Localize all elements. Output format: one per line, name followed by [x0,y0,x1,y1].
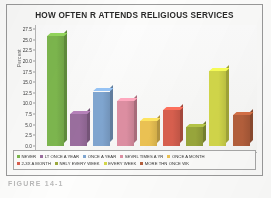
y-axis-label: Percent [17,49,22,67]
figure-page: HOW OFTEN R ATTENDS RELIGIOUS SERVICES P… [0,0,271,198]
y-tick-label: 22.5 [23,48,32,53]
y-tick-label: 12.5 [23,90,32,95]
legend-item[interactable]: ONCE A YEAR [83,153,116,160]
legend-item[interactable]: LT ONCE A YEAR [40,153,79,160]
bar-top [163,107,184,110]
bar-face [117,101,134,146]
bar-top [233,112,254,115]
bar[interactable] [117,101,134,146]
bar[interactable] [93,92,110,146]
bar[interactable] [233,115,250,146]
bar-side [226,64,229,142]
legend-item[interactable]: EVERY WEEK [104,160,137,167]
bar-side [64,30,67,143]
bar-face [93,92,110,146]
bar-top [117,98,138,101]
legend-label: NEVER [22,153,37,160]
y-tick-label: 7.5 [25,112,32,117]
legend-swatch [17,155,20,158]
bar-series [35,25,257,146]
bar-face [70,114,87,146]
figure-caption: FIGURE 14-1 [8,180,64,187]
legend-swatch [83,155,86,158]
legend-item[interactable]: NEVER [17,153,36,160]
bar[interactable] [163,110,180,146]
bar-face [186,127,203,146]
bar-face [209,71,226,146]
bar-face [140,121,157,146]
legend-label: EVERY WEEK [108,160,136,167]
legend-item[interactable]: 2-3X A MONTH [17,160,51,167]
legend-swatch [167,155,170,158]
bar[interactable] [70,114,87,146]
y-tick-label: 5.0 [25,122,32,127]
y-tick-label: 20.0 [23,58,32,63]
bar-face [47,36,64,146]
legend-label: LT ONCE A YEAR [45,153,79,160]
bar-side [134,95,137,143]
legend-item[interactable]: ONCE A MONTH [167,153,204,160]
legend-item[interactable]: NRLY EVERY WEEK [55,160,100,167]
legend-label: MORE THN ONCE WK [145,160,189,167]
legend-swatch [40,155,43,158]
plot-wrapper: 0.02.55.07.510.012.515.017.520.022.525.0… [35,25,257,153]
legend-item[interactable]: MORE THN ONCE WK [140,160,189,167]
legend-swatch [17,162,20,165]
legend-label: SEVRL TIMES A YR [125,153,164,160]
legend-item[interactable]: SEVRL TIMES A YR [120,153,163,160]
chart-frame: HOW OFTEN R ATTENDS RELIGIOUS SERVICES P… [6,4,263,176]
y-tick-label: 0.0 [25,144,32,149]
chart-title: HOW OFTEN R ATTENDS RELIGIOUS SERVICES [7,11,262,20]
legend-swatch [55,162,58,165]
y-tick-label: 17.5 [23,69,32,74]
bar-top [209,68,230,71]
bar[interactable] [209,71,226,146]
legend-row-1: NEVERLT ONCE A YEARONCE A YEARSEVRL TIME… [17,153,252,160]
bar[interactable] [186,127,203,146]
legend-label: 2-3X A MONTH [22,160,51,167]
bar[interactable] [47,36,64,146]
legend-swatch [104,162,107,165]
bar-side [110,85,113,143]
bar-top [70,111,91,114]
legend-label: ONCE A MONTH [172,153,205,160]
legend-swatch [120,155,123,158]
y-tick-label: 10.0 [23,101,32,106]
chart-legend: NEVERLT ONCE A YEARONCE A YEARSEVRL TIME… [13,150,256,170]
legend-label: NRLY EVERY WEEK [59,160,99,167]
bar-top [186,124,207,127]
legend-swatch [140,162,143,165]
bar-top [47,33,68,36]
legend-label: ONCE A YEAR [88,153,117,160]
y-tick-label: 15.0 [23,80,32,85]
bar-face [163,110,180,146]
bar[interactable] [140,121,157,146]
y-tick-label: 25.0 [23,37,32,42]
y-tick-label: 27.5 [23,27,32,32]
bar-face [233,115,250,146]
legend-row-2: 2-3X A MONTHNRLY EVERY WEEKEVERY WEEKMOR… [17,160,252,167]
bar-top [140,118,161,121]
y-tick-label: 2.5 [25,133,32,138]
